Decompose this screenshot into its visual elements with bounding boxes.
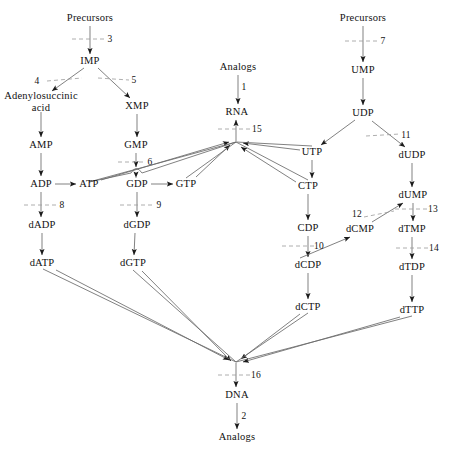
pathway-node-gtp: GTP [176, 178, 196, 190]
pathway-step-5-label: 5 [132, 75, 137, 85]
pathway-node-dudp: dUDP [398, 149, 425, 161]
pathway-node-atp: ATP [79, 178, 98, 190]
pathway-node-xmp: XMP [125, 100, 148, 112]
pathway-diagram: PrecursorsIMPAdenylosuccinicacidXMPAMPGM… [0, 0, 454, 460]
pathway-node-dcdp: dCDP [295, 259, 321, 271]
pathway-node-dadp: dADP [28, 219, 55, 231]
pathway-step-11-label: 11 [401, 130, 411, 140]
pathway-node-dttp: dTTP [400, 304, 425, 316]
pathway-node-utp: UTP [302, 146, 322, 158]
pathway-node-gdp: GDP [126, 178, 148, 190]
pathway-step-13-label: 13 [428, 204, 438, 214]
pathway-node-ump: UMP [351, 64, 374, 76]
pathway-step-3-label: 3 [108, 34, 113, 44]
pathway-step-8-label: 8 [60, 200, 65, 210]
pathway-node-precursors_a: Precursors [67, 12, 113, 24]
pathway-step-14-label: 14 [429, 243, 439, 253]
pathway-node-dtdp: dTDP [399, 261, 425, 273]
pathway-node-analogs_top: Analogs [220, 61, 256, 73]
pathway-node-dna: DNA [225, 389, 248, 401]
pathway-node-gmp: GMP [124, 139, 147, 151]
pathway-node-adp: ADP [30, 178, 52, 190]
pathway-node-udp: UDP [352, 107, 374, 119]
pathway-node-dgdp: dGDP [123, 219, 150, 231]
pathway-node-adenylosuccinic: Adenylosuccinicacid [4, 90, 78, 113]
pathway-node-analogs_bottom: Analogs [219, 431, 255, 443]
pathway-step-12-label: 12 [352, 209, 362, 219]
pathway-node-dump: dUMP [399, 189, 428, 201]
pathway-step-6-label: 6 [148, 157, 153, 167]
pathway-node-dctp: dCTP [295, 301, 320, 313]
pathway-step-2-label: 2 [242, 411, 247, 421]
pathway-step-16-label: 16 [251, 370, 261, 380]
pathway-step-4-label: 4 [35, 76, 40, 86]
pathway-step-9-label: 9 [157, 200, 162, 210]
pathway-node-dcmp: dCMP [346, 223, 374, 235]
pathway-node-dgtp: dGTP [120, 257, 146, 269]
pathway-node-precursors_b: Precursors [340, 12, 386, 24]
pathway-node-cdp: CDP [297, 222, 318, 234]
pathway-node-datp: dATP [30, 257, 55, 269]
pathway-node-imp: IMP [80, 55, 99, 67]
pathway-step-7-label: 7 [381, 36, 386, 46]
pathway-node-amp: AMP [29, 139, 52, 151]
pathway-node-ctp: CTP [298, 180, 318, 192]
pathway-node-dtmp: dTMP [398, 223, 426, 235]
pathway-step-15-label: 15 [252, 124, 262, 134]
pathway-step-10-label: 10 [314, 241, 324, 251]
pathway-node-rna: RNA [226, 106, 249, 118]
pathway-step-1-label: 1 [242, 82, 247, 92]
